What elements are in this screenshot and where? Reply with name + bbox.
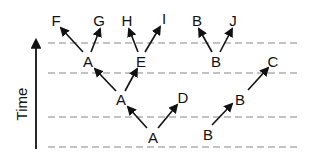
node-b: B	[192, 12, 202, 29]
node-b: B	[211, 53, 221, 70]
node-d: D	[178, 89, 189, 106]
edges	[61, 27, 268, 128]
edge-arrow-e-to-h	[129, 29, 138, 52]
node-b: B	[235, 91, 245, 108]
edge-arrow-e-to-i	[145, 27, 160, 52]
edge-arrow-b-to-b	[212, 104, 232, 125]
node-e: E	[136, 53, 146, 70]
node-h: H	[122, 12, 133, 29]
node-a: A	[116, 91, 126, 108]
edge-arrow-b-to-c	[248, 68, 268, 90]
node-j: J	[229, 12, 237, 29]
node-g: G	[93, 12, 105, 29]
nodes: ABADBCAEBFGHIBJ	[51, 10, 278, 146]
phylogeny-diagram: Time ABADBCAEBFGHIBJ	[0, 0, 311, 155]
node-a: A	[148, 129, 158, 146]
node-i: I	[162, 10, 166, 27]
time-axis-label: Time	[13, 88, 30, 121]
node-b: B	[203, 126, 213, 143]
time-axis: Time	[13, 40, 37, 149]
edge-arrow-b-to-j	[220, 29, 232, 52]
edge-arrow-a-to-a	[95, 69, 116, 91]
node-f: F	[51, 12, 60, 29]
edge-arrow-a-to-e	[125, 69, 137, 91]
edge-arrow-a-to-f	[61, 28, 83, 52]
edge-arrow-a-to-g	[91, 29, 100, 52]
edge-arrow-b-to-b	[199, 29, 212, 52]
node-a: A	[83, 53, 93, 70]
node-c: C	[268, 53, 279, 70]
